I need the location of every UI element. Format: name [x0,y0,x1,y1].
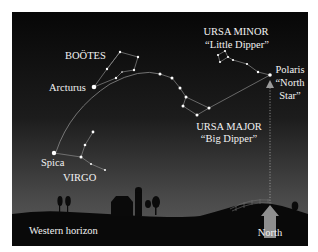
polaris-label: Polaris [275,64,304,75]
western-horizon-label: Western horizon [29,225,99,236]
big-dipper-label: “Big Dipper” [201,133,258,144]
north-star-label-line1: “North [275,77,305,88]
little-dipper-label: “Little Dipper” [205,39,269,50]
ursa-major-label: URSA MAJOR [196,121,262,132]
ursa-minor-label: URSA MINOR [203,26,268,37]
spica-star [52,151,56,155]
spica-label: Spica [41,157,65,168]
virgo-label: VIRGO [63,172,97,183]
arcturus-star [92,85,97,90]
star-chart-diagram: BOÖTES Arcturus URSA MINOR “Little Dippe… [0,0,318,252]
arcturus-label: Arcturus [49,82,86,93]
north-star-label-line2: Star” [279,90,301,101]
bootes-label: BOÖTES [65,50,106,61]
north-label: North [258,227,283,238]
polaris-star [268,73,272,77]
